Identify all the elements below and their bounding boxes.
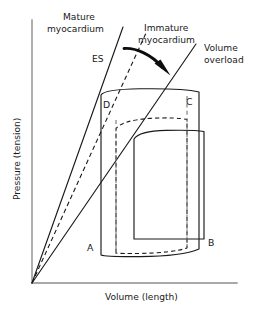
point-label-c: C xyxy=(186,96,193,107)
espvr-lines-group xyxy=(32,27,196,283)
point-label-b: B xyxy=(208,237,214,248)
es-label: ES xyxy=(92,54,104,64)
x-axis-label: Volume (length) xyxy=(105,292,178,302)
figure-root: Mature myocardium Immature myocardium Vo… xyxy=(0,0,268,312)
axis-labels-group: Pressure (tension) Volume (length) xyxy=(12,118,178,302)
inner-loop xyxy=(134,130,204,239)
intermediate-loop-path xyxy=(116,118,187,254)
volume-overload-label-line2: overload xyxy=(204,55,244,65)
mature-myocardium-label-line1: Mature xyxy=(63,12,95,22)
volume-overload-label-line1: Volume xyxy=(204,43,238,53)
immature-myocardium-label-line1: Immature xyxy=(144,23,189,33)
mature-myocardium-line xyxy=(32,27,123,283)
immature-annotation-arrow xyxy=(124,48,171,75)
point-label-a: A xyxy=(87,242,94,253)
point-label-d: D xyxy=(103,99,110,110)
mature-myocardium-label-line2: myocardium xyxy=(47,24,104,34)
volume-overload-line xyxy=(32,44,196,283)
pressure-volume-loop-diagram: Mature myocardium Immature myocardium Vo… xyxy=(0,0,268,312)
y-axis-label: Pressure (tension) xyxy=(12,118,22,200)
intermediate-dashed-loop xyxy=(116,118,187,254)
annotation-labels-group: Mature myocardium Immature myocardium Vo… xyxy=(47,12,244,65)
immature-myocardium-label-line2: myocardium xyxy=(138,35,195,45)
inner-loop-path xyxy=(134,130,204,239)
vertical-reference-lines xyxy=(116,96,187,254)
